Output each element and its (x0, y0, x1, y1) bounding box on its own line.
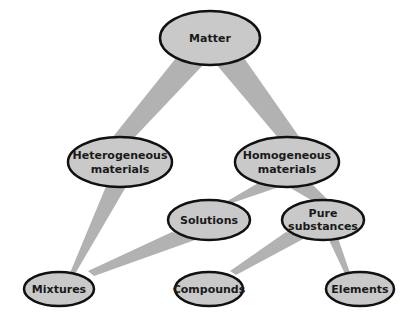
edge-solutions-mixtures (88, 232, 195, 276)
node-matter: Matter (160, 11, 260, 65)
edge-matter-heterogeneous (112, 58, 204, 140)
node-compounds-label: Compounds (173, 283, 246, 296)
node-pure-label-line1: Pure (309, 207, 338, 220)
node-solutions-label: Solutions (180, 214, 238, 227)
node-mixtures: Mixtures (24, 272, 94, 306)
node-homogeneous-label-line1: Homogeneous (243, 149, 332, 162)
matter-classification-diagram: Matter Heterogeneous materials Homogeneo… (0, 0, 411, 325)
node-homogeneous-label-line2: materials (258, 163, 317, 176)
node-solutions: Solutions (168, 200, 250, 240)
node-elements: Elements (326, 272, 394, 306)
node-heterogeneous-label-line1: Heterogeneous (73, 149, 168, 162)
node-homogeneous-materials: Homogeneous materials (235, 137, 339, 187)
node-elements-label: Elements (331, 283, 389, 296)
node-heterogeneous-materials: Heterogeneous materials (68, 137, 172, 187)
edge-matter-homogeneous (216, 58, 300, 140)
edge-pure-compounds (230, 232, 305, 275)
edge-pure-elements (328, 238, 350, 274)
node-heterogeneous-label-line2: materials (91, 163, 150, 176)
node-pure-label-line2: substances (288, 220, 358, 233)
node-pure-substances: Pure substances (282, 200, 364, 240)
node-compounds: Compounds (173, 272, 246, 306)
node-mixtures-label: Mixtures (32, 283, 87, 296)
node-matter-label: Matter (189, 32, 231, 45)
